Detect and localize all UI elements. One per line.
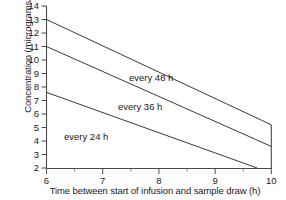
annotation-every-24h: every 24 h — [64, 131, 108, 142]
x-tick-label-6: 6 — [44, 175, 49, 186]
series-group — [47, 20, 272, 169]
y-tick-label-6: 6 — [34, 108, 39, 119]
chart-container: 14 13 12 11 10 9 8 7 6 5 4 3 2 — [0, 0, 286, 200]
x-tick-label-10: 10 — [266, 175, 277, 186]
line-chart-plot: 14 13 12 11 10 9 8 7 6 5 4 3 2 — [0, 0, 286, 200]
annotation-36h: every 36 h — [118, 101, 162, 112]
y-tick-label-8: 8 — [34, 81, 39, 92]
y-tick-label-3: 3 — [34, 149, 39, 160]
y-tick-label-7: 7 — [34, 95, 39, 106]
x-axis-title: Time between start of infusion and sampl… — [30, 185, 280, 196]
y-tick-label-5: 5 — [34, 122, 39, 133]
axis-group — [47, 6, 273, 169]
x-tick-label-9: 9 — [212, 175, 217, 186]
x-tick-group: 6 7 8 9 10 — [44, 169, 277, 186]
y-tick-label-9: 9 — [34, 68, 39, 79]
annotation-group: every 48 h every 36 h every 24 h — [64, 72, 173, 143]
y-tick-label-4: 4 — [34, 135, 39, 146]
x-tick-label-8: 8 — [156, 175, 161, 186]
annotation-every-48h: every 48 h — [129, 72, 173, 83]
y-axis-title: Concentration (micrograms/mL) — [22, 0, 33, 123]
y-tick-label-2: 2 — [34, 162, 39, 173]
x-tick-label-7: 7 — [100, 175, 105, 186]
